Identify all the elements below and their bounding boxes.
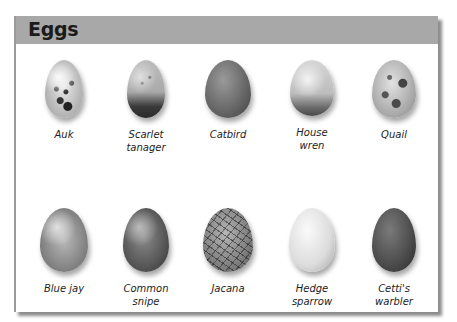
egg-label: Catbird [186,128,270,141]
egg-item-blue-jay: Blue jay [22,208,106,295]
egg-label: Jacana [186,282,270,295]
quail-egg-image [372,60,416,118]
catbird-egg-image [205,60,251,118]
egg-label: Cetti's warbler [352,282,436,308]
egg-label: Common snipe [104,282,188,308]
egg-item-quail: Quail [352,60,436,141]
blue-jay-egg-image [40,208,88,272]
egg-item-hedge-sparrow: Hedge sparrow [270,208,354,308]
egg-label: Quail [352,128,436,141]
egg-item-catbird: Catbird [186,60,270,141]
egg-item-auk: Auk [22,60,106,141]
panel-title: Eggs [28,18,78,40]
cettis-warbler-egg-image [372,208,416,272]
house-wren-egg-image [290,60,334,116]
eggs-panel: Eggs Auk Scarlet tanager Catbird [14,16,438,312]
panel-header: Eggs [16,16,438,44]
egg-item-jacana: Jacana [186,208,270,295]
hedge-sparrow-egg-image [289,208,335,272]
jacana-egg-image [203,208,253,272]
auk-egg-image [45,60,83,118]
egg-label: Blue jay [22,282,106,295]
egg-item-cettis-warbler: Cetti's warbler [352,208,436,308]
egg-label: House wren [270,126,354,152]
egg-label: Auk [22,128,106,141]
egg-grid: Auk Scarlet tanager Catbird House wren [16,44,438,312]
scarlet-tanager-egg-image [127,60,165,118]
common-snipe-egg-image [123,208,169,272]
egg-item-common-snipe: Common snipe [104,208,188,308]
egg-label: Scarlet tanager [104,128,188,154]
egg-item-scarlet-tanager: Scarlet tanager [104,60,188,154]
egg-label: Hedge sparrow [270,282,354,308]
egg-item-house-wren: House wren [270,60,354,152]
